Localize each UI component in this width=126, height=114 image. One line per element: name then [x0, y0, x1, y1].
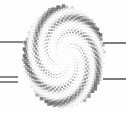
spiral-dot: [28, 52, 30, 54]
spiral-dot: [87, 51, 88, 52]
spiral-dot: [44, 34, 45, 35]
spiral-dot: [77, 20, 79, 22]
spiral-dot: [61, 56, 62, 57]
spiral-dot: [41, 92, 43, 94]
spiral-dot: [60, 33, 61, 34]
spiral-dot: [97, 39, 99, 41]
spiral-dot: [30, 55, 32, 57]
spiral-dot: [69, 55, 70, 56]
spiral-dot: [57, 16, 59, 18]
spiral-dot: [46, 46, 48, 48]
spiral-dot: [47, 60, 48, 61]
spiral-dot: [48, 8, 51, 11]
spiral-dot: [72, 32, 74, 34]
spiral-dot: [36, 71, 37, 72]
spiral-dot: [68, 73, 69, 74]
spiral-dot: [41, 54, 42, 55]
spiral-dot: [52, 42, 53, 43]
spiral-dot: [36, 35, 39, 38]
spiral-dot: [85, 67, 87, 69]
spiral-dot: [81, 85, 83, 87]
spiral-dot: [32, 53, 34, 55]
spiral-dot: [75, 74, 76, 75]
spiral-dot: [62, 45, 63, 46]
spiral-dot: [52, 98, 54, 100]
spiral-dot: [97, 43, 99, 45]
spiral-dot: [87, 32, 89, 34]
spiral-dot: [31, 57, 33, 59]
spiral-dot: [78, 58, 79, 59]
spiral-dot: [34, 45, 36, 47]
spiral-dot: [30, 60, 32, 62]
spiral-dot: [81, 45, 82, 46]
spiral-dot: [81, 60, 82, 61]
spiral-dot: [46, 57, 47, 58]
spiral-dot: [94, 76, 96, 78]
spiral-dot: [62, 9, 64, 11]
spiral-dot: [82, 55, 83, 56]
spiral-dot: [73, 35, 74, 36]
spiral-dot: [69, 85, 71, 87]
spiral-dot: [71, 6, 74, 9]
spiral-dot: [49, 58, 50, 59]
spiral-dot: [60, 73, 61, 74]
spiral-dot: [51, 70, 52, 71]
spiral-dot: [89, 78, 91, 80]
spiral-dot: [33, 26, 35, 28]
spiral-dot: [42, 14, 45, 17]
spiral-dot: [76, 77, 77, 78]
spiral-dot: [57, 51, 58, 52]
spiral-dot: [63, 64, 64, 65]
spiral-dot: [50, 89, 52, 91]
spiral-dot: [61, 14, 63, 16]
spiral-dot: [55, 56, 56, 57]
spiral-dot: [78, 43, 79, 44]
spiral-dot: [76, 97, 78, 99]
spiral-dot: [75, 44, 76, 45]
spiral-dot: [38, 75, 40, 77]
spiral-dot: [60, 69, 61, 70]
spiral-dot: [42, 85, 45, 88]
spiral-dot: [66, 79, 67, 80]
spiral-dot: [81, 70, 82, 71]
spiral-dot: [98, 72, 101, 75]
spiral-dot: [81, 88, 83, 90]
spiral-dot: [80, 96, 82, 98]
spiral-dot: [40, 85, 43, 88]
spiral-dot: [74, 38, 75, 39]
spiral-dot: [43, 61, 44, 62]
spiral-dot: [40, 94, 42, 96]
spiral-dot: [77, 86, 79, 88]
spiral-dot: [84, 87, 86, 89]
spiral-dot: [49, 69, 50, 70]
spiral-dot: [23, 65, 26, 68]
spiral-dot: [74, 41, 75, 42]
spiral-dot: [103, 55, 105, 57]
spiral-dot: [29, 38, 31, 40]
spiral-dot: [32, 62, 33, 63]
spiral-dot: [83, 69, 84, 70]
spiral-dot: [48, 64, 49, 65]
spiral-dot: [79, 80, 80, 81]
spiral-dot: [90, 71, 92, 73]
spiral-dot: [44, 88, 46, 90]
spiral-dot: [79, 37, 80, 38]
spiral-dot: [36, 65, 38, 67]
spiral-dot: [47, 36, 49, 38]
spiral-dot: [53, 77, 54, 78]
spiral-dot: [80, 100, 82, 102]
spiral-dot: [24, 70, 26, 72]
spiral-dot: [64, 54, 65, 55]
spiral-dot: [66, 87, 68, 89]
spiral-dot: [60, 22, 62, 24]
spiral-dot: [76, 28, 78, 30]
spiral-dot: [53, 54, 54, 55]
spiral-dot: [47, 81, 48, 82]
spiral-dot: [92, 63, 93, 64]
spiral-dot: [89, 52, 90, 53]
spiral-dot: [72, 67, 73, 68]
spiral-dot: [38, 41, 40, 43]
spiral-dot: [84, 81, 86, 83]
spiral-dot: [43, 79, 44, 80]
spiral-dot: [88, 55, 89, 56]
